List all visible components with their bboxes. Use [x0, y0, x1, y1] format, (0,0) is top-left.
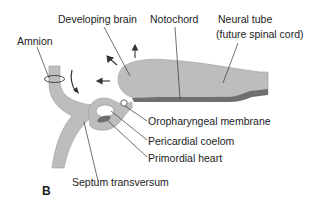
- label-septum-transversum: Septum transversum: [72, 176, 169, 188]
- label-neural-tube: Neural tube: [218, 13, 272, 25]
- label-pericardial-coelom: Pericardial coelom: [148, 135, 234, 147]
- label-neural-tube-sub: (future spinal cord): [216, 28, 304, 40]
- label-developing-brain: Developing brain: [58, 13, 137, 25]
- label-primordial-heart: Primordial heart: [148, 152, 222, 164]
- panel-label: B: [42, 184, 51, 198]
- label-amnion: Amnion: [17, 35, 53, 47]
- oropharyngeal-membrane-shape: [121, 100, 127, 106]
- label-oropharyngeal-membrane: Oropharyngeal membrane: [148, 115, 271, 127]
- label-notochord: Notochord: [150, 13, 198, 25]
